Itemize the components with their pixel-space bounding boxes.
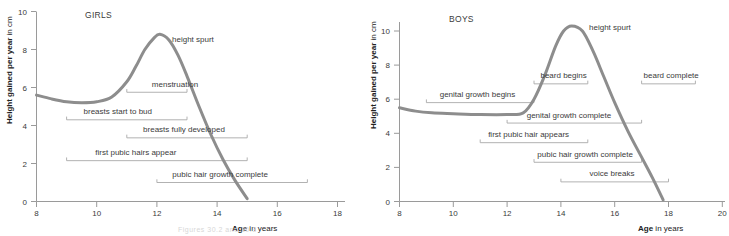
x-tick-label: 12 [152,209,161,218]
y-tick-label: 2 [23,160,28,169]
event-label: breasts fully developed [143,125,225,134]
height-spurt-annotation-boys: height spurt [589,23,632,32]
y-axis-title-girls: Height gained per year in cm [5,16,14,124]
height-spurt-annotation-girls: height spurt [172,35,215,44]
x-tick-label: 14 [213,209,222,218]
figure-page: 0 2 4 6 8 10 8 10 12 14 16 18 [0,0,729,236]
y-axis-title-bold: Height gained per year [5,38,14,124]
x-tick-label: 8 [34,209,39,218]
y-tick-label: 10 [18,8,27,17]
x-tick-label: 10 [449,209,458,218]
y-tick-label: 6 [386,95,391,104]
event-bracket [642,81,696,84]
x-tick-label: 20 [718,209,727,218]
event-bracket [534,159,642,162]
event-brackets-girls [67,89,308,182]
y-tick-label: 8 [386,61,391,70]
x-tick-label: 18 [664,209,673,218]
y-tick-label: 0 [386,198,391,207]
event-label: first pubic hairs appear [95,148,176,157]
chart-boys: 0 2 4 6 8 10 8 10 12 14 16 [365,0,729,236]
y-tick-label: 0 [23,198,28,207]
y-axis-title-boys: Height gained per year in cm [369,21,378,129]
x-tick-label: 16 [273,209,282,218]
event-label: voice breaks [590,169,635,178]
event-bracket [67,117,187,120]
y-axis-title-rest: in cm [369,21,378,43]
x-tick-label: 14 [556,209,565,218]
event-bracket [127,89,187,92]
event-labels-girls: menstruation breasts start to bud breast… [84,80,269,179]
figure-caption-faint: Figures 30.2 and 30.3 [178,226,257,233]
y-axis-title-bold: Height gained per year [369,43,378,129]
y-tick-label: 6 [23,84,28,93]
y-tick-label: 10 [381,27,390,36]
event-label: first pubic hair appears [488,130,569,139]
event-label: genital growth begins [440,90,516,99]
x-tick-label: 10 [92,209,101,218]
x-axis-title-boys: Age in years [638,224,683,233]
x-tick-label: 12 [503,209,512,218]
chart-title-girls: GIRLS [85,10,112,20]
y-axis-title-rest: in cm [5,16,14,38]
y-tick-label: 8 [23,46,28,55]
chart-girls-svg: 0 2 4 6 8 10 8 10 12 14 16 18 [0,0,365,236]
chart-boys-svg: 0 2 4 6 8 10 8 10 12 14 16 [365,0,729,236]
chart-title-boys: BOYS [449,14,474,24]
event-label: beard complete [644,71,700,80]
event-label: breasts start to bud [84,107,152,116]
event-label: beard begins [540,71,586,80]
event-bracket [426,99,534,102]
x-ticks-girls: 8 10 12 14 16 18 [34,202,342,219]
x-tick-label: 16 [610,209,619,218]
y-tick-label: 4 [386,129,391,138]
event-bracket [480,139,588,142]
y-tick-label: 4 [23,122,28,131]
y-tick-label: 2 [386,163,391,172]
event-label: pubic hair growth complete [172,170,268,179]
event-label: genital growth complete [527,111,612,120]
event-bracket [127,135,247,138]
chart-girls: 0 2 4 6 8 10 8 10 12 14 16 18 [0,0,365,236]
y-ticks-boys: 0 2 4 6 8 10 [381,27,399,207]
event-bracket [157,179,308,182]
x-tick-label: 18 [333,209,342,218]
x-tick-label: 8 [397,209,402,218]
event-bracket [67,157,248,160]
y-ticks-girls: 0 2 4 6 8 10 [18,8,36,207]
x-ticks-boys: 8 10 12 14 16 18 20 [397,202,727,219]
event-label: pubic hair growth complete [537,150,633,159]
x-axis-title-bold: Age [638,224,654,233]
event-label: menstruation [152,80,198,89]
x-axis-title-rest: in years [653,224,683,233]
